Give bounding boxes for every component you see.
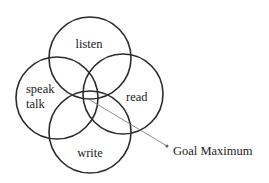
label-listen: listen <box>75 37 103 51</box>
label-talk: talk <box>26 97 45 111</box>
label-speak: speak <box>26 82 55 96</box>
label-write: write <box>77 146 103 160</box>
label-read: read <box>126 90 148 104</box>
circle-read <box>83 54 163 134</box>
circle-write <box>49 91 131 173</box>
annotation-pointer-line <box>90 100 167 146</box>
label-goal-maximum: Goal Maximum <box>173 144 253 158</box>
venn-diagram: listen speak talk read write Goal Maximu… <box>0 0 269 183</box>
annotation-dot-icon <box>165 144 168 147</box>
